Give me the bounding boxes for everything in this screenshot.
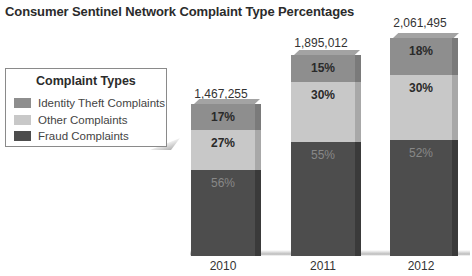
- bar-side-other-2012: [452, 75, 458, 140]
- bar-side-other-2011: [355, 82, 361, 142]
- legend-item-other: Other Complaints: [14, 113, 127, 127]
- bar-side-fraud-2011: [355, 142, 361, 256]
- legend-item-identity-theft: Identity Theft Complaints: [14, 96, 165, 110]
- bar-side-identity-2011: [355, 55, 361, 82]
- segment-identity-2012: 18%: [390, 38, 452, 75]
- bar-side-fraud-2010: [255, 170, 261, 256]
- bar-2010: 17% 27% 56%: [191, 104, 255, 256]
- x-label-2011: 2011: [293, 259, 353, 273]
- segment-other-2011: 30%: [291, 82, 355, 142]
- bar-2012: 18% 30% 52%: [390, 38, 452, 256]
- x-label-2012: 2012: [391, 259, 451, 273]
- legend-title: Complaint Types: [36, 74, 136, 88]
- segment-fraud-2011: 55%: [291, 142, 355, 256]
- bar-total-2011: 1,895,012: [281, 36, 361, 50]
- x-label-2010: 2010: [193, 259, 253, 273]
- segment-identity-2011: 15%: [291, 55, 355, 82]
- legend: Complaint Types Identity Theft Complaint…: [5, 68, 167, 147]
- segment-fraud-2010: 56%: [191, 170, 255, 256]
- bar-side-fraud-2012: [452, 140, 458, 256]
- bar-side-identity-2012: [452, 38, 458, 75]
- legend-swatch-other: [14, 115, 31, 125]
- legend-item-fraud: Fraud Complaints: [14, 129, 129, 143]
- chart-title: Consumer Sentinel Network Complaint Type…: [5, 4, 354, 19]
- bar-2011: 15% 30% 55%: [291, 55, 355, 256]
- bar-total-2012: 2,061,495: [380, 16, 460, 30]
- segment-other-2012: 30%: [390, 75, 452, 140]
- segment-fraud-2012: 52%: [390, 140, 452, 256]
- legend-swatch-fraud: [14, 131, 31, 141]
- bar-total-2010: 1,467,255: [181, 87, 261, 101]
- bar-side-identity-2010: [255, 104, 261, 130]
- legend-swatch-identity-theft: [14, 98, 31, 108]
- segment-other-2010: 27%: [191, 130, 255, 170]
- segment-identity-2010: 17%: [191, 104, 255, 130]
- bar-side-other-2010: [255, 130, 261, 170]
